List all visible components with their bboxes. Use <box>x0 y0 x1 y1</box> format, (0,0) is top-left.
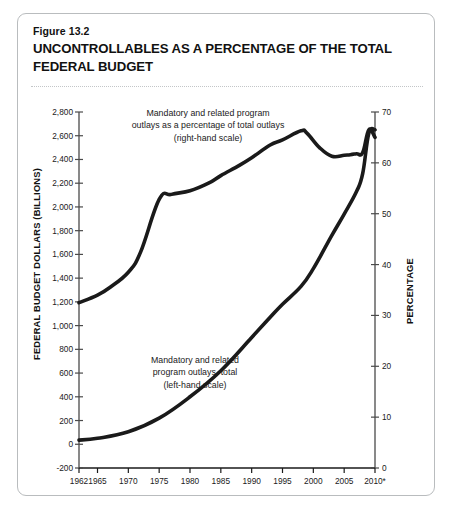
right-axis-tick-label: 70 <box>382 107 416 117</box>
left-axis-tick-label: 1,800 <box>39 226 73 236</box>
chart-canvas <box>18 14 436 497</box>
left-axis-tick-label: -200 <box>39 463 73 473</box>
right-axis-title: PERCENTAGE <box>405 221 415 361</box>
left-axis-tick-label: 1,600 <box>39 249 73 259</box>
dollars-series-line <box>79 128 375 440</box>
x-axis-tick-label: 2010* <box>355 476 395 486</box>
annotation-line: (right-hand scale) <box>98 132 318 144</box>
right-axis-tick-label: 10 <box>382 412 416 422</box>
left-axis-tick-label: 2,000 <box>39 202 73 212</box>
right-axis-tick-label: 40 <box>382 260 416 270</box>
left-axis-tick-label: 0 <box>39 439 73 449</box>
left-axis-tick-label: 400 <box>39 392 73 402</box>
percentage-series-annotation: Mandatory and related program outlays as… <box>98 107 318 144</box>
annotation-line: Mandatory and related <box>90 354 300 366</box>
left-axis-tick-label: 1,000 <box>39 321 73 331</box>
axes-lines <box>79 112 375 468</box>
right-axis-tick-label: 50 <box>382 209 416 219</box>
left-axis-title: FEDERAL BUDGET DOLLARS (BILLIONS) <box>32 164 42 364</box>
right-axis-tick-label: 30 <box>382 310 416 320</box>
percentage-series-line <box>79 129 375 303</box>
annotation-line: program outlays, total <box>90 366 300 378</box>
left-axis-tick-label: 2,800 <box>39 107 73 117</box>
annotation-line: outlays as a percentage of total outlays <box>98 119 318 131</box>
left-axis-tick-label: 1,200 <box>39 297 73 307</box>
right-axis-tick-label: 20 <box>382 361 416 371</box>
left-axis-tick-label: 2,600 <box>39 131 73 141</box>
left-axis-tick-label: 2,200 <box>39 178 73 188</box>
annotation-line: (left-hand scale) <box>90 379 300 391</box>
left-axis-tick-label: 200 <box>39 416 73 426</box>
left-axis-tick-label: 1,400 <box>39 273 73 283</box>
left-axis-tick-label: 800 <box>39 344 73 354</box>
left-axis-tick-label: 2,400 <box>39 154 73 164</box>
left-axis-tick-label: 600 <box>39 368 73 378</box>
dollars-series-annotation: Mandatory and related program outlays, t… <box>90 354 300 391</box>
right-axis-tick-label: 60 <box>382 158 416 168</box>
chart-plot-area: FEDERAL BUDGET DOLLARS (BILLIONS) PERCEN… <box>18 14 436 497</box>
annotation-line: Mandatory and related program <box>98 107 318 119</box>
figure-card: Figure 13.2 UNCONTROLLABLES AS A PERCENT… <box>17 13 435 496</box>
right-axis-tick-label: 0 <box>382 463 416 473</box>
